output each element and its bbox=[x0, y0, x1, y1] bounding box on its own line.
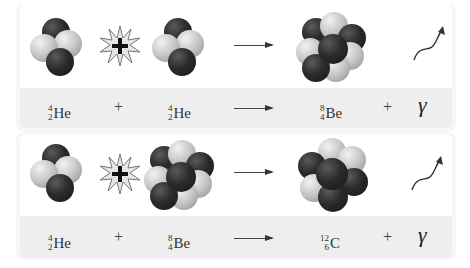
plus-sign: + bbox=[114, 98, 123, 116]
helium-4-nucleus bbox=[30, 144, 86, 204]
reaction-arrow bbox=[234, 238, 272, 239]
plus-sign: + bbox=[383, 98, 392, 116]
beryllium-8-nucleus bbox=[294, 10, 370, 82]
isotope-label: 84Be bbox=[168, 228, 190, 252]
plus-sign: + bbox=[114, 228, 123, 246]
isotope-label: 84Be bbox=[320, 98, 342, 122]
gamma-symbol: γ bbox=[418, 222, 427, 248]
isotope-label: 126C bbox=[320, 228, 340, 252]
isotope-label: 42He bbox=[48, 98, 71, 122]
carbon-12-nucleus bbox=[296, 138, 370, 212]
helium-4-nucleus bbox=[152, 18, 208, 78]
reaction-arrow bbox=[234, 172, 272, 173]
isotope-label: 42He bbox=[168, 98, 191, 122]
isotope-label: 42He bbox=[48, 228, 71, 252]
helium-4-nucleus bbox=[30, 18, 86, 78]
gamma-photon-wavy-arrow-icon bbox=[408, 154, 448, 194]
starburst-plus-icon bbox=[98, 152, 142, 196]
reaction-arrow bbox=[234, 108, 272, 109]
plus-sign: + bbox=[383, 228, 392, 246]
gamma-symbol: γ bbox=[418, 92, 427, 118]
reaction-arrow bbox=[234, 45, 272, 46]
starburst-plus-icon bbox=[98, 24, 142, 68]
gamma-photon-wavy-arrow-icon bbox=[410, 24, 450, 64]
beryllium-8-nucleus bbox=[142, 138, 218, 210]
